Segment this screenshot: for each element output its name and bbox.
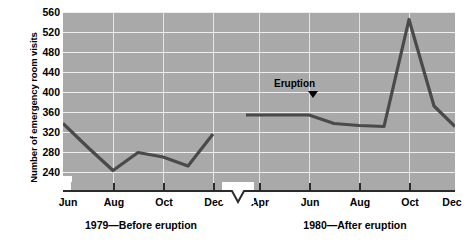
x-label-1979-oct: Oct bbox=[144, 196, 184, 208]
y-tick-440: 440 bbox=[26, 67, 60, 78]
caption-1979: 1979—Before eruption bbox=[41, 219, 241, 231]
y-tick-280: 280 bbox=[26, 147, 60, 158]
x-label-1979-jun: Jun bbox=[48, 196, 88, 208]
x-label-1980-oct: Oct bbox=[390, 196, 430, 208]
y-tick-240: 240 bbox=[26, 167, 60, 178]
chart-root: Number of emergency room visits 560 520 … bbox=[0, 0, 469, 247]
y-tick-400: 400 bbox=[26, 87, 60, 98]
y-tick-320: 320 bbox=[26, 127, 60, 138]
eruption-label: Eruption bbox=[274, 78, 315, 89]
y-axis-tick-labels: 560 520 480 440 400 360 320 280 240 0 bbox=[22, 0, 60, 247]
x-tick-1980-jun bbox=[309, 183, 311, 191]
plot-area bbox=[63, 12, 455, 190]
eruption-down-triangle-icon bbox=[308, 91, 318, 98]
y-tick-560: 560 bbox=[26, 7, 60, 18]
series-line-1980 bbox=[246, 20, 455, 127]
x-label-1979-aug: Aug bbox=[94, 196, 134, 208]
x-tick-1980-apr bbox=[259, 183, 261, 191]
series-line-1979 bbox=[63, 124, 213, 171]
series-lines bbox=[63, 12, 455, 190]
x-tick-1979-dec bbox=[213, 183, 215, 191]
y-tick-520: 520 bbox=[26, 27, 60, 38]
x-tick-1979-aug bbox=[113, 183, 115, 191]
x-axis-break-notch bbox=[222, 182, 254, 204]
x-tick-1980-oct bbox=[409, 183, 411, 191]
x-label-1980-jun: Jun bbox=[290, 196, 330, 208]
x-label-1980-dec: Dec bbox=[432, 196, 469, 208]
caption-1980: 1980—After eruption bbox=[255, 219, 455, 231]
x-label-1980-aug: Aug bbox=[340, 196, 380, 208]
y-tick-360: 360 bbox=[26, 107, 60, 118]
y-tick-480: 480 bbox=[26, 47, 60, 58]
x-tick-1980-aug bbox=[359, 183, 361, 191]
x-tick-1979-oct bbox=[163, 183, 165, 191]
